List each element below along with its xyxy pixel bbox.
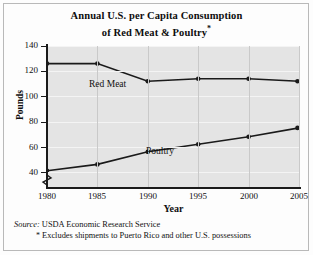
chart-title-line-1: Annual U.S. per Capita Consumption — [0, 10, 313, 23]
x-tick-label-2000: 2000 — [229, 191, 269, 201]
gridline-v-1985 — [97, 46, 98, 187]
x-tick-label-1990: 1990 — [128, 191, 168, 201]
series-label-red-meat: Red Meat — [89, 79, 126, 89]
y-axis-label: Pounds — [15, 75, 25, 135]
gridline-h-140 — [47, 46, 300, 47]
gridline-h-100 — [47, 96, 300, 97]
chart-title-asterisk: * — [207, 24, 211, 33]
gridline-h-120 — [47, 71, 300, 72]
gridline-v-2000 — [249, 46, 250, 187]
chart-title-line-2-text: of Red Meat & Poultry — [102, 26, 207, 37]
gridline-h-40 — [47, 172, 300, 173]
gridline-v-1995 — [198, 46, 199, 187]
x-axis-line — [46, 187, 301, 189]
chart-title: Annual U.S. per Capita Consumption of Re… — [0, 10, 313, 39]
plot-area: Red Meat Poultry — [47, 46, 300, 187]
gridline-v-2005 — [299, 46, 300, 187]
y-tick-label-40: 40 — [14, 168, 38, 177]
chart-title-line-2: of Red Meat & Poultry* — [0, 23, 313, 39]
footnotes: Source: USDA Economic Research Service *… — [14, 219, 251, 241]
x-axis-label: Year — [47, 203, 300, 214]
y-tick-label-120: 120 — [14, 66, 38, 75]
y-tick-label-60: 60 — [14, 143, 38, 152]
x-tick-label-2005: 2005 — [279, 191, 313, 201]
series-label-poultry: Poultry — [146, 146, 174, 156]
y-tick-label-140: 140 — [14, 41, 38, 50]
red-meat-line — [47, 64, 299, 82]
x-tick-label-1985: 1985 — [77, 191, 117, 201]
source-word: Source: — [14, 220, 40, 229]
series-canvas — [47, 46, 300, 187]
y-axis-line — [46, 44, 48, 189]
source-line: Source: USDA Economic Research Service — [14, 219, 251, 230]
footnote-line: * Excludes shipments to Puerto Rico and … — [14, 230, 251, 241]
footnote-text: Excludes shipments to Puerto Rico and ot… — [40, 231, 251, 240]
chart-figure: Annual U.S. per Capita Consumption of Re… — [0, 0, 313, 255]
axis-break-icon — [40, 172, 56, 188]
gridline-h-80 — [47, 122, 300, 123]
x-tick-label-1980: 1980 — [27, 191, 67, 201]
gridline-v-1990 — [148, 46, 149, 187]
x-tick-label-1995: 1995 — [178, 191, 218, 201]
source-text: USDA Economic Research Service — [40, 220, 160, 229]
